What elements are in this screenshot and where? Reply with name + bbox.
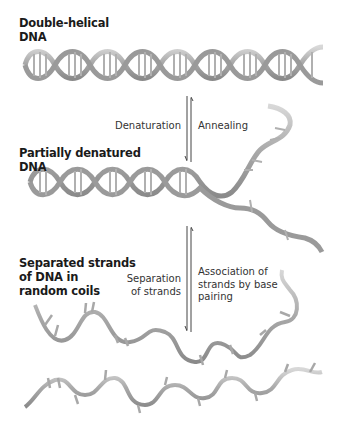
label-double-helical: Double-helical DNA	[19, 16, 109, 44]
label-line: Double-helical	[19, 16, 109, 30]
label-line: Separated strands	[19, 256, 136, 270]
label-line: Partially denatured	[19, 146, 141, 160]
caption-annealing: Annealing	[198, 120, 248, 133]
caption-line: pairing	[198, 291, 278, 304]
equilibrium-arrow-bottom	[185, 226, 193, 332]
caption-line: strands by base	[198, 279, 278, 292]
label-line: of DNA in	[19, 270, 136, 284]
caption-separation: Separation of strands	[127, 273, 181, 298]
label-line: DNA	[19, 160, 141, 174]
equilibrium-arrow-top	[185, 96, 193, 162]
caption-association: Association of strands by base pairing	[198, 266, 278, 304]
caption-line: Association of	[198, 266, 278, 279]
dna-diagram	[0, 0, 339, 424]
label-line: random coils	[19, 284, 136, 298]
label-partially-denatured: Partially denatured DNA	[19, 146, 141, 174]
caption-line: Separation	[127, 273, 181, 286]
caption-line: of strands	[127, 286, 181, 299]
single-strand-2	[25, 363, 322, 413]
label-separated-strands: Separated strands of DNA in random coils	[19, 256, 136, 298]
caption-denaturation: Denaturation	[115, 120, 181, 133]
double-helix-dna	[25, 47, 323, 83]
label-line: DNA	[19, 30, 109, 44]
